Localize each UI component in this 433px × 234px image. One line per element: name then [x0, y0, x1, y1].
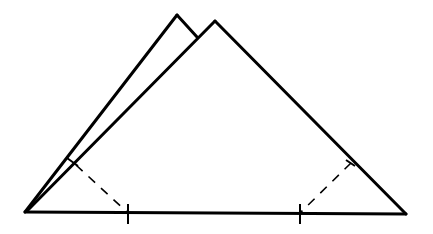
front-triangle-right-edge: [215, 21, 406, 214]
folded-triangle-diagram: [0, 0, 433, 234]
front-triangle-left-edge: [27, 21, 215, 211]
back-triangle: [25, 15, 197, 212]
left-fold-line: [76, 165, 128, 213]
right-fold-line: [300, 163, 351, 213]
back-triangle-right-edge: [177, 15, 197, 37]
baseline: [25, 212, 406, 214]
back-triangle-left-edge: [25, 15, 177, 212]
fold-lines: [76, 163, 351, 213]
front-triangle: [25, 21, 406, 214]
